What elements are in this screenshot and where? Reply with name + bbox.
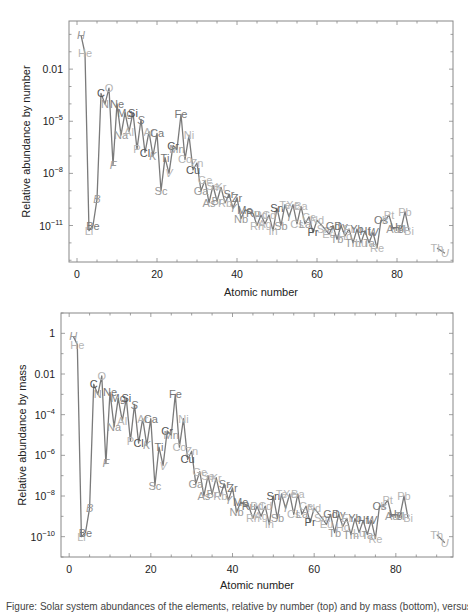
x-axis-title: Atomic number xyxy=(224,286,298,298)
x-tick-label: 40 xyxy=(227,563,239,575)
x-tick-label: 20 xyxy=(145,563,157,575)
x-axis-title: Atomic number xyxy=(220,579,294,591)
element-label-b: B xyxy=(86,502,93,514)
element-label-h: H xyxy=(77,29,85,41)
y-tick-label: 10−10 xyxy=(31,529,55,543)
chart-panel-by-number: 0204060800.0110−510−810−11Atomic numberR… xyxy=(20,21,453,298)
y-tick-label: 10−4 xyxy=(35,407,55,421)
element-label-si: Si xyxy=(121,392,131,404)
element-label-o: O xyxy=(98,370,107,382)
element-label-sb: Sb xyxy=(271,512,284,524)
x-tick-label: 20 xyxy=(151,268,163,280)
element-label-sc: Sc xyxy=(155,185,168,197)
element-label-fe: Fe xyxy=(169,388,182,400)
element-label-pt: Pt xyxy=(382,494,392,506)
element-label-k: K xyxy=(143,439,151,451)
y-tick-label: 10−6 xyxy=(35,447,55,461)
element-label-bi: Bi xyxy=(403,512,413,524)
element-label-ca: Ca xyxy=(144,413,159,425)
element-label-b: B xyxy=(93,193,100,205)
element-label-pb: Pb xyxy=(397,490,410,502)
x-tick-label: 80 xyxy=(390,563,402,575)
element-label-u: U xyxy=(441,537,449,549)
element-label-f: F xyxy=(103,457,111,469)
element-label-s: S xyxy=(131,399,139,411)
x-tick-label: 0 xyxy=(74,268,80,280)
element-label-zr: Zr xyxy=(232,192,243,204)
element-label-n: N xyxy=(94,388,102,400)
figure-caption: Figure: Solar system abundances of the e… xyxy=(6,601,468,612)
y-tick-label: 0.01 xyxy=(43,63,64,75)
element-label-f: F xyxy=(110,159,118,171)
element-label-zr: Zr xyxy=(227,482,238,494)
element-label-sc: Sc xyxy=(148,480,161,492)
element-label-n: N xyxy=(101,98,109,110)
element-label-ca: Ca xyxy=(150,127,165,139)
x-tick-label: 80 xyxy=(391,268,403,280)
y-tick-label: 1 xyxy=(49,327,55,339)
element-label-pt: Pt xyxy=(384,209,394,221)
y-tick-label: 10−5 xyxy=(43,113,63,127)
element-label-ni: Ni xyxy=(184,129,194,141)
y-tick-label: 10−8 xyxy=(35,488,55,502)
element-label-he: He xyxy=(70,339,84,351)
element-label-pb: Pb xyxy=(398,206,411,218)
element-label-zn: Zn xyxy=(185,445,198,457)
x-tick-label: 60 xyxy=(308,563,320,575)
element-label-ni: Ni xyxy=(178,413,188,425)
element-label-u: U xyxy=(441,247,449,259)
element-label-k: K xyxy=(149,150,157,162)
x-tick-label: 60 xyxy=(311,268,323,280)
element-label-o: O xyxy=(105,82,114,94)
element-label-re: Re xyxy=(370,242,384,254)
element-label-sb: Sb xyxy=(274,220,287,232)
element-label-y: Y xyxy=(225,494,233,506)
element-label-ti: Ti xyxy=(161,152,170,164)
element-label-v: V xyxy=(159,460,168,472)
x-tick-label: 40 xyxy=(231,268,243,280)
element-label-ba: Ba xyxy=(291,488,305,500)
element-label-w: W xyxy=(368,226,380,238)
element-label-ti: Ti xyxy=(155,441,164,453)
element-label-s: S xyxy=(137,114,145,126)
element-label-bi: Bi xyxy=(404,225,414,237)
element-label-w: W xyxy=(366,514,378,526)
element-label-al: Al xyxy=(117,415,127,427)
element-label-fe: Fe xyxy=(175,108,188,120)
element-label-v: V xyxy=(165,167,174,179)
element-label-mn: Mn xyxy=(164,429,179,441)
element-label-be: Be xyxy=(79,527,92,539)
y-axis-title: Relative abundance by mass xyxy=(16,364,28,506)
element-label-re: Re xyxy=(368,533,382,545)
element-label-zn: Zn xyxy=(191,157,204,169)
element-label-he: He xyxy=(78,47,92,59)
chart-panel-by-mass: 02040608010.0110−410−610−810−10Atomic nu… xyxy=(16,313,453,591)
element-label-al: Al xyxy=(124,126,134,138)
y-tick-label: 0.01 xyxy=(35,368,56,380)
element-label-be: Be xyxy=(86,220,99,232)
y-axis-title: Relative abundance by number xyxy=(20,65,32,218)
x-tick-label: 0 xyxy=(66,563,72,575)
y-tick-label: 10−11 xyxy=(39,218,63,232)
y-tick-label: 10−8 xyxy=(43,165,63,179)
